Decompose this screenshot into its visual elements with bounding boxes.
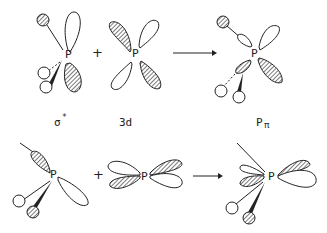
open-substituent-icon: [13, 195, 25, 207]
p-pi-orbital: P: [215, 16, 282, 103]
open-substituent-icon: [215, 85, 227, 97]
svg-text:π: π: [264, 120, 270, 130]
sigma-star-orbital: P: [37, 12, 81, 93]
open-substituent-icon: [226, 202, 238, 214]
hatched-lobe-icon: [240, 176, 264, 187]
hatched-lobe-icon: [236, 60, 251, 73]
open-lobe-icon: [58, 177, 88, 206]
hatched-substituent-icon: [37, 14, 49, 26]
svg-text:P: P: [256, 116, 263, 129]
open-substituent-icon: [38, 67, 50, 79]
svg-text:3d: 3d: [119, 116, 132, 129]
open-lobe-icon: [139, 20, 159, 48]
svg-text:P: P: [141, 170, 148, 183]
svg-text:P: P: [65, 48, 72, 61]
open-lobe-icon: [238, 34, 253, 47]
svg-text:P: P: [50, 168, 57, 181]
hatched-substituent-icon: [27, 206, 39, 218]
svg-text:P: P: [132, 47, 139, 60]
hatched-lobe-icon: [258, 58, 282, 83]
open-substituent-icon: [233, 91, 245, 103]
hatched-lobe-icon: [110, 176, 140, 188]
open-substituent-icon: [40, 81, 52, 93]
arrowhead-icon: [212, 50, 217, 56]
hatched-lobe-icon: [150, 160, 182, 175]
sigma-orbital-row2: P: [13, 143, 88, 218]
hatched-substituent-icon: [243, 212, 255, 224]
orbital-diagram: P + P P σ * 3d P π P: [0, 0, 327, 233]
product-orbital-row2: P: [226, 143, 316, 224]
open-lobe-icon: [259, 26, 279, 50]
d-orbital-row2: P: [108, 160, 182, 189]
svg-text:P: P: [251, 47, 258, 60]
svg-text:+: +: [92, 45, 103, 60]
open-lobe-icon: [111, 62, 132, 90]
arrowhead-icon: [218, 173, 223, 179]
3d-orbital: P: [109, 20, 160, 89]
svg-text:+: +: [93, 167, 104, 182]
svg-text:σ: σ: [54, 116, 61, 129]
svg-text:*: *: [62, 113, 67, 122]
hatched-lobe-icon: [140, 61, 161, 89]
hatched-lobe-icon: [64, 63, 81, 92]
hatched-lobe-icon: [31, 151, 50, 173]
svg-text:P: P: [268, 170, 275, 183]
open-lobe-icon: [65, 12, 80, 52]
open-lobe-icon: [108, 161, 140, 175]
open-lobe-icon: [150, 174, 182, 188]
wedge-bond-icon: [237, 73, 243, 92]
hatched-lobe-icon: [109, 22, 131, 52]
